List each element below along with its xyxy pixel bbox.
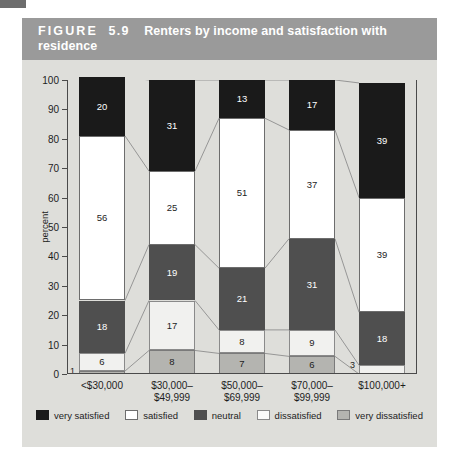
- chart-panel: percent 0102030405060708090100 161856208…: [22, 60, 437, 447]
- figure-title-bar: FIGURE 5.9 Renters by income and satisfa…: [22, 18, 437, 60]
- legend-label: satisfied: [143, 410, 178, 421]
- figure-container: FIGURE 5.9 Renters by income and satisfa…: [22, 18, 437, 447]
- plot-area: percent 0102030405060708090100 161856208…: [67, 80, 417, 374]
- y-axis-tick-label: 20: [48, 310, 59, 321]
- legend-item-very-dissatisfied[interactable]: very dissatisfied: [337, 410, 423, 421]
- x-axis-label-line: $30,000–: [137, 380, 207, 392]
- y-axis-tick-label: 40: [48, 251, 59, 262]
- legend-swatch-satisfied: [125, 410, 138, 420]
- legend-label: very satisfied: [54, 410, 109, 421]
- y-axis-tick-label: 80: [48, 133, 59, 144]
- legend-item-very-satisfied[interactable]: very satisfied: [36, 410, 109, 421]
- x-axis-label-line: $49,999: [137, 392, 207, 404]
- legend-swatch-very-satisfied: [36, 410, 49, 420]
- y-axis-tick: [62, 374, 67, 375]
- x-axis-label-line: $99,999: [277, 392, 347, 404]
- y-axis-tick-label: 10: [48, 339, 59, 350]
- x-axis-label: $50,000–$69,999: [207, 380, 277, 404]
- legend-item-neutral[interactable]: neutral: [194, 410, 241, 421]
- y-axis-tick-label: 100: [42, 75, 59, 86]
- legend-swatch-neutral: [194, 410, 207, 420]
- legend-label: neutral: [212, 410, 241, 421]
- x-axis-label: $70,000–$99,999: [277, 380, 347, 404]
- corner-print-mark: [0, 0, 26, 8]
- y-axis-tick-label: 70: [48, 163, 59, 174]
- legend-label: very dissatisfied: [355, 410, 423, 421]
- y-axis-tick-label: 30: [48, 280, 59, 291]
- y-axis-tick-label: 50: [48, 222, 59, 233]
- legend-label: dissatisfied: [275, 410, 322, 421]
- y-axis-tick-label: 60: [48, 192, 59, 203]
- chart-legend: very satisfiedsatisfiedneutraldissatisfi…: [32, 406, 427, 424]
- legend-swatch-very-dissatisfied: [337, 410, 350, 420]
- plot-frame: [67, 80, 417, 374]
- x-axis-label-line: $70,000–: [277, 380, 347, 392]
- y-axis-tick-label: 0: [53, 369, 59, 380]
- legend-swatch-dissatisfied: [257, 410, 270, 420]
- x-axis-label-line: $50,000–: [207, 380, 277, 392]
- legend-item-dissatisfied[interactable]: dissatisfied: [257, 410, 322, 421]
- x-axis-label: $30,000–$49,999: [137, 380, 207, 404]
- x-axis-label: $100,000+: [347, 380, 417, 392]
- figure-label: FIGURE: [38, 24, 98, 38]
- legend-item-satisfied[interactable]: satisfied: [125, 410, 178, 421]
- x-axis-label-line: $69,999: [207, 392, 277, 404]
- x-axis-label-line: <$30,000: [67, 380, 137, 392]
- x-axis-label-line: $100,000+: [347, 380, 417, 392]
- figure-title-text: FIGURE 5.9 Renters by income and satisfa…: [38, 24, 425, 54]
- x-axis-label: <$30,000: [67, 380, 137, 392]
- y-axis-tick-label: 90: [48, 104, 59, 115]
- figure-number: 5.9: [109, 24, 130, 38]
